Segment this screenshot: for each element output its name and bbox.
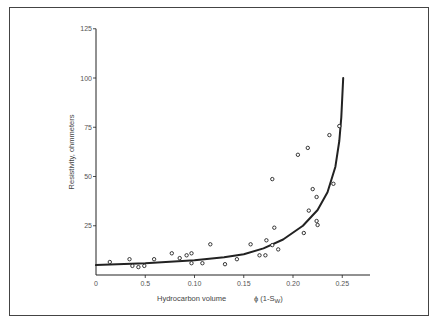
y-tick-label: 125 xyxy=(80,25,92,32)
data-point-marker xyxy=(131,264,134,267)
data-point-marker xyxy=(277,248,280,251)
x-tick-label: 0 xyxy=(94,280,98,287)
formula-close: ) xyxy=(280,294,283,303)
data-point-marker xyxy=(311,187,314,190)
data-point-marker xyxy=(265,239,268,242)
data-point-marker xyxy=(271,177,274,180)
data-point-marker xyxy=(258,254,261,257)
data-point-marker xyxy=(137,265,140,268)
data-point-marker xyxy=(315,219,318,222)
data-point-marker xyxy=(185,254,188,257)
data-point-marker xyxy=(209,243,212,246)
y-tick-label: 100 xyxy=(80,75,92,82)
x-axis-formula: ϕ (1-SW) xyxy=(254,294,283,304)
x-tick-label: 0.20 xyxy=(286,280,300,287)
data-points xyxy=(108,124,341,268)
data-point-marker xyxy=(273,226,276,229)
data-point-marker xyxy=(190,262,193,265)
data-point-marker xyxy=(316,223,319,226)
data-point-marker xyxy=(249,243,252,246)
data-point-marker xyxy=(307,209,310,212)
data-point-marker xyxy=(170,252,173,255)
data-point-marker xyxy=(108,260,111,263)
data-point-marker xyxy=(201,262,204,265)
y-tick-label: 25 xyxy=(84,222,92,229)
data-point-marker xyxy=(190,252,193,255)
data-point-marker xyxy=(223,263,226,266)
y-tick-label: 75 xyxy=(84,124,92,131)
data-point-marker xyxy=(302,231,305,234)
fitted-curve xyxy=(96,78,343,265)
data-point-marker xyxy=(315,195,318,198)
x-tick-label: 0.25 xyxy=(335,280,349,287)
x-axis-label-text: Hydrocarbon volume xyxy=(157,294,226,303)
data-point-marker xyxy=(338,124,341,127)
data-point-marker xyxy=(178,256,181,259)
resistivity-vs-hydrocarbon-volume-chart: 25507510012500.50.100.150.200.25 Resisti… xyxy=(0,0,435,326)
fitted-curve-line xyxy=(96,78,343,265)
data-point-marker xyxy=(128,258,131,261)
data-point-marker xyxy=(332,182,335,185)
data-point-marker xyxy=(271,243,274,246)
x-tick-label: 0.15 xyxy=(237,280,251,287)
data-point-marker xyxy=(152,258,155,261)
data-point-marker xyxy=(296,153,299,156)
data-point-marker xyxy=(143,264,146,267)
data-point-marker xyxy=(264,254,267,257)
x-tick-label: 0.5 xyxy=(140,280,150,287)
x-tick-label: 0.10 xyxy=(188,280,202,287)
data-point-marker xyxy=(235,258,238,261)
data-point-marker xyxy=(306,146,309,149)
axes: 25507510012500.50.100.150.200.25 xyxy=(80,25,370,287)
formula-main: ϕ (1-S xyxy=(254,294,274,303)
y-axis-label: Resistivity, ohmmeters xyxy=(67,114,76,189)
axis-labels: Resistivity, ohmmeters Hydrocarbon volum… xyxy=(67,114,283,304)
y-tick-label: 50 xyxy=(84,173,92,180)
x-axis-label: Hydrocarbon volume xyxy=(157,294,226,303)
data-point-marker xyxy=(328,133,331,136)
